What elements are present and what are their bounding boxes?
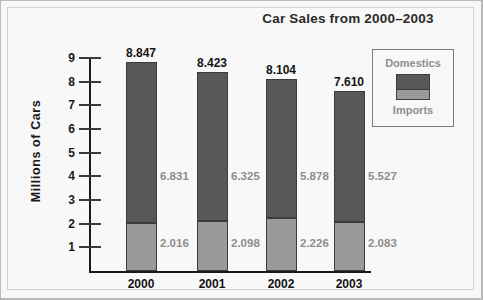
y-tick-label-4: 4 <box>53 171 75 181</box>
bar-value-imports-2003: 2.083 <box>368 237 397 249</box>
chart-container: Car Sales from 2000–2003 Millions of Car… <box>0 0 483 300</box>
y-axis-title: Millions of Cars <box>29 81 43 221</box>
bar-value-imports-2000: 2.016 <box>160 237 189 249</box>
y-tick-2 <box>79 223 101 225</box>
bar-2003[interactable] <box>334 91 365 271</box>
bar-segment-imports-2003[interactable] <box>334 222 365 271</box>
y-tick-label-1: 1 <box>53 242 75 252</box>
legend-label-domestics: Domestics <box>373 50 453 70</box>
bar-segment-imports-2002[interactable] <box>266 218 297 271</box>
bar-value-domestics-2000: 6.831 <box>160 170 189 182</box>
bar-2001[interactable] <box>197 72 228 271</box>
bar-value-imports-2001: 2.098 <box>231 237 260 249</box>
y-tick-label-2: 2 <box>53 219 75 229</box>
legend-label-imports: Imports <box>373 100 453 117</box>
y-tick-6 <box>79 128 101 130</box>
bar-segment-domestics-2001[interactable] <box>197 72 228 222</box>
y-tick-3 <box>79 199 101 201</box>
bar-value-domestics-2002: 5.878 <box>300 170 329 182</box>
y-tick-label-9: 9 <box>53 53 75 63</box>
legend-swatch <box>396 74 430 100</box>
bar-segment-imports-2000[interactable] <box>126 223 157 271</box>
bar-segment-domestics-2000[interactable] <box>126 62 157 224</box>
y-tick-label-8: 8 <box>53 77 75 87</box>
bar-2000[interactable] <box>126 62 157 271</box>
y-tick-5 <box>79 152 101 154</box>
x-axis-label-2002: 2002 <box>246 277 316 291</box>
bar-2002[interactable] <box>266 79 297 271</box>
y-tick-9 <box>79 57 101 59</box>
y-tick-8 <box>79 81 101 83</box>
x-axis-line <box>89 271 371 273</box>
x-axis-label-2001: 2001 <box>177 277 247 291</box>
y-tick-label-3: 3 <box>53 195 75 205</box>
y-tick-label-7: 7 <box>53 100 75 110</box>
y-axis-line <box>89 58 91 273</box>
y-tick-1 <box>79 246 101 248</box>
bar-total-label-2002: 8.104 <box>246 63 316 77</box>
bar-value-domestics-2001: 6.325 <box>231 170 260 182</box>
chart-title: Car Sales from 2000–2003 <box>233 11 463 26</box>
y-tick-7 <box>79 104 101 106</box>
bar-total-label-2000: 8.847 <box>106 46 176 60</box>
y-tick-label-6: 6 <box>53 124 75 134</box>
bar-value-imports-2002: 2.226 <box>300 237 329 249</box>
x-axis-label-2003: 2003 <box>314 277 384 291</box>
legend-swatch-domestics <box>397 75 429 90</box>
bar-segment-domestics-2003[interactable] <box>334 91 365 222</box>
bar-segment-imports-2001[interactable] <box>197 221 228 271</box>
y-tick-label-5: 5 <box>53 148 75 158</box>
y-tick-4 <box>79 175 101 177</box>
bar-segment-domestics-2002[interactable] <box>266 79 297 218</box>
chart-legend: Domestics Imports <box>372 49 454 127</box>
x-axis-label-2000: 2000 <box>106 277 176 291</box>
bar-total-label-2001: 8.423 <box>177 56 247 70</box>
bar-value-domestics-2003: 5.527 <box>368 170 397 182</box>
plot-area: 987654321 8.8476.8312.01620008.4236.3252… <box>89 31 419 273</box>
